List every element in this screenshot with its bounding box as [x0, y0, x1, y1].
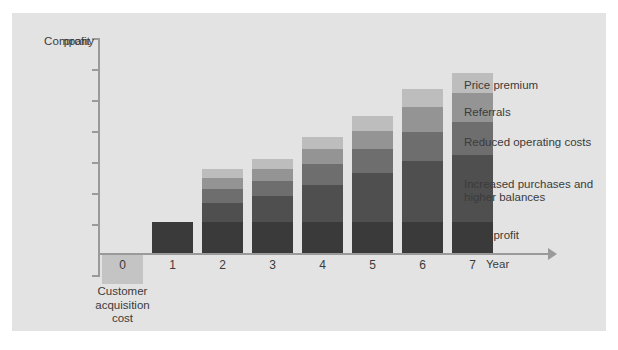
bar-segment: [302, 222, 343, 253]
legend-item-referrals: Referrals: [464, 106, 614, 120]
bar-segment: [352, 131, 393, 150]
legend-item-increased-purchases-line2: higher balances: [464, 191, 614, 205]
stacked-bar-year-5[interactable]: [352, 116, 393, 253]
bar-segment: [252, 159, 293, 169]
bar-segment: [202, 178, 243, 189]
bar-segment: [202, 189, 243, 203]
legend-item-price-premium: Price premium: [464, 79, 614, 93]
chart-panel: Company profit Year Customeracquisitionc…: [12, 13, 606, 331]
stacked-bar-year-3[interactable]: [252, 159, 293, 253]
bar-segment: [352, 116, 393, 131]
chart-screenshot: Company profit Year Customeracquisitionc…: [0, 0, 618, 350]
plot-area: Company profit Year Customeracquisitionc…: [12, 13, 606, 331]
bar-segment: [252, 196, 293, 222]
bar-segment: [302, 149, 343, 163]
bar-segment: [202, 222, 243, 253]
chart-legend: Price premium Referrals Reduced operatin…: [464, 13, 614, 331]
bar-segment: [402, 107, 443, 132]
stacked-bar-year-2[interactable]: [202, 169, 243, 253]
bar-segment: [402, 222, 443, 253]
bar-segment: [302, 137, 343, 149]
legend-item-increased-purchases-line1: Increased purchases and: [464, 178, 614, 192]
x-tick-label-3: 3: [252, 258, 293, 272]
legend-item-reduced-operating-costs: Reduced operating costs: [464, 136, 614, 150]
bar-segment: [352, 173, 393, 222]
stacked-bar-year-1[interactable]: [152, 222, 193, 253]
customer-acquisition-cost-label: Customeracquisitioncost: [70, 285, 176, 326]
bar-segment: [252, 181, 293, 196]
bar-segment: [152, 222, 193, 253]
bar-segment: [352, 149, 393, 173]
x-tick-label-0: 0: [102, 258, 143, 272]
bar-segment: [302, 164, 343, 186]
bar-segment: [202, 203, 243, 223]
bar-segment: [202, 169, 243, 178]
legend-item-base-profit: Base profit: [464, 229, 614, 243]
stacked-bar-year-4[interactable]: [302, 137, 343, 253]
x-tick-label-5: 5: [352, 258, 393, 272]
bar-segment: [252, 169, 293, 181]
bar-segment: [352, 222, 393, 253]
bar-segment: [302, 185, 343, 222]
bar-segment: [402, 89, 443, 106]
stacked-bar-year-6[interactable]: [402, 89, 443, 253]
x-tick-label-4: 4: [302, 258, 343, 272]
bar-segment: [402, 161, 443, 222]
x-tick-label-1: 1: [152, 258, 193, 272]
x-tick-label-2: 2: [202, 258, 243, 272]
bar-segment: [252, 222, 293, 253]
x-tick-label-6: 6: [402, 258, 443, 272]
bar-segment: [402, 132, 443, 161]
